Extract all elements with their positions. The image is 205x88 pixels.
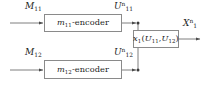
signal-m11-base: M [25,1,34,11]
signal-m12-base: M [25,47,34,57]
function-arg1-base: U [145,33,152,43]
encoder-block-m12[interactable]: m12-encoder [44,60,122,79]
function-block-x1[interactable]: x1(U11,U12) [133,30,179,48]
block-diagram: m11-encoder m12-encoder x1(U11,U12) M11 … [0,0,205,88]
signal-u12-sub: 12 [125,51,133,58]
encoder-block-m11-label: m11-encoder [57,18,109,28]
junction-dot-top [137,22,140,25]
signal-u12-base: U [114,47,122,57]
encoder-m12-sub: 12 [65,68,72,74]
encoder-m12-suffix: -encoder [72,64,109,74]
encoder-m11-sub: 11 [65,22,72,28]
encoder-m11-base: m [57,17,65,27]
signal-label-m11: M11 [25,2,42,12]
signal-m11-sub: 11 [34,5,42,12]
signal-label-u12: Un12 [114,47,133,58]
junction-dot-bottom [137,69,140,72]
signal-u11-base: U [114,1,122,11]
signal-label-m12: M12 [25,48,42,58]
encoder-m12-base: m [57,64,65,74]
function-arg-close: ) [176,33,179,43]
encoder-m11-suffix: -encoder [72,17,109,27]
signal-m12-sub: 12 [34,51,42,58]
encoder-block-m11[interactable]: m11-encoder [44,14,122,32]
function-block-x1-label: x1(U11,U12) [133,34,179,44]
signal-u11-sub: 11 [125,5,133,12]
function-arg1-sub: 11 [152,38,159,44]
signal-x1-sub: 1 [193,22,197,29]
function-arg2-base: U [161,33,168,43]
function-arg2-sub: 12 [169,38,176,44]
signal-label-u11: Un11 [114,1,133,12]
signal-label-x1: Xn1 [183,18,197,29]
encoder-block-m12-label: m12-encoder [57,65,109,75]
